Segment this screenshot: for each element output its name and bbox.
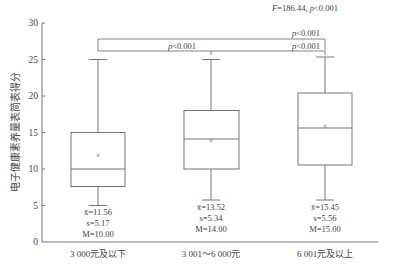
svg-text:10: 10: [29, 164, 39, 174]
svg-text:5: 5: [33, 201, 38, 211]
p-value-1-3: p<0.001: [291, 28, 320, 38]
svg-text:s=5.17: s=5.17: [87, 218, 110, 228]
stats-labels-2: x̄=13.52 s=5.34 M=14.00: [195, 202, 226, 234]
svg-text:25: 25: [29, 55, 39, 65]
svg-text:20: 20: [29, 91, 39, 101]
y-tick-labels: 30 25 20 15 10 5 0: [29, 18, 39, 247]
svg-text:M=10.00: M=10.00: [82, 229, 113, 239]
p-value-1-2: p<0.001: [167, 41, 196, 51]
x-category-labels: 3 000元及以下 3 001～6 000元 6 001元及以上: [70, 249, 353, 259]
box-plot-chart: 电子健康素养量表简表得分 30 25 20 15 10 5 0 ×: [0, 0, 396, 264]
svg-text:3 001～6 000元: 3 001～6 000元: [182, 249, 241, 259]
svg-text:s=5.34: s=5.34: [200, 213, 224, 223]
overall-f-test: F=186.44, p<0.001: [271, 3, 338, 13]
svg-text:x̄=15.45: x̄=15.45: [311, 202, 339, 212]
svg-text:30: 30: [29, 18, 39, 28]
svg-text:M=14.00: M=14.00: [195, 224, 226, 234]
svg-text:3 000元及以下: 3 000元及以下: [70, 249, 126, 259]
box-group-3: ×: [298, 57, 352, 200]
p-value-2-3: p<0.001: [291, 41, 320, 51]
svg-text:M=15.00: M=15.00: [309, 224, 340, 234]
svg-text:15: 15: [29, 128, 39, 138]
box-group-2: ×: [184, 60, 239, 201]
box-group-1: ×: [71, 60, 125, 206]
svg-text:×: ×: [96, 151, 101, 160]
stats-labels-3: x̄=15.45 s=5.56 M=15.00: [309, 202, 340, 234]
stats-labels-1: x̄=11.56 s=5.17 M=10.00: [82, 207, 113, 239]
svg-text:x̄=11.56: x̄=11.56: [84, 207, 112, 217]
y-axis-label: 电子健康素养量表简表得分: [9, 72, 21, 192]
svg-text:x̄=13.52: x̄=13.52: [197, 202, 225, 212]
svg-text:s=5.56: s=5.56: [314, 213, 337, 223]
svg-text:×: ×: [209, 136, 214, 145]
svg-text:×: ×: [323, 122, 328, 131]
svg-text:0: 0: [33, 237, 38, 247]
svg-text:6 001元及以上: 6 001元及以上: [297, 249, 353, 259]
